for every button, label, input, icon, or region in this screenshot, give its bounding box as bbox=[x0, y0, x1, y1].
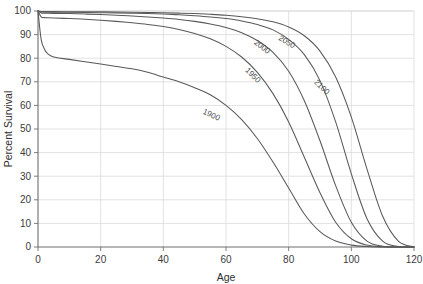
y-tick-label: 60 bbox=[20, 100, 32, 111]
x-axis-title: Age bbox=[217, 271, 236, 283]
curve-label-1950: 1950 bbox=[243, 66, 262, 85]
chart-canvas: 0102030405060708090100020406080100120Age… bbox=[0, 0, 423, 284]
x-tick-label: 100 bbox=[343, 254, 360, 265]
x-tick-label: 120 bbox=[406, 254, 423, 265]
x-tick-label: 40 bbox=[158, 254, 170, 265]
y-tick-label: 50 bbox=[20, 123, 32, 134]
y-tick-label: 100 bbox=[14, 5, 31, 16]
curve-label-2100: 2100 bbox=[312, 78, 331, 97]
y-tick-label: 80 bbox=[20, 53, 32, 64]
curve-label-group-1950: 1950 bbox=[243, 66, 262, 85]
curve-label-2050: 2050 bbox=[277, 33, 297, 50]
curve-label-group-2000: 2000 bbox=[252, 38, 272, 56]
curve-label-group-2100: 2100 bbox=[312, 78, 331, 97]
y-tick-label: 40 bbox=[20, 147, 32, 158]
y-tick-label: 90 bbox=[20, 29, 32, 40]
x-tick-label: 0 bbox=[35, 254, 41, 265]
survival-chart: 0102030405060708090100020406080100120Age… bbox=[0, 0, 423, 284]
y-tick-label: 0 bbox=[25, 241, 31, 252]
y-tick-label: 70 bbox=[20, 76, 32, 87]
x-tick-label: 80 bbox=[283, 254, 295, 265]
y-tick-label: 30 bbox=[20, 171, 32, 182]
curve-label-group-2050: 2050 bbox=[277, 33, 297, 50]
x-tick-label: 20 bbox=[95, 254, 107, 265]
curve-label-group-1900: 1900 bbox=[201, 107, 221, 123]
y-tick-label: 20 bbox=[20, 194, 32, 205]
y-axis-title: Percent Survival bbox=[2, 91, 14, 167]
curve-label-1900: 1900 bbox=[201, 107, 221, 123]
x-tick-label: 60 bbox=[220, 254, 232, 265]
y-tick-label: 10 bbox=[20, 218, 32, 229]
curve-label-2000: 2000 bbox=[252, 38, 272, 56]
